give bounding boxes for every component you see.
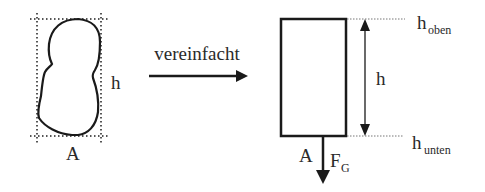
simplified-rectangle bbox=[281, 19, 346, 136]
diagram-canvas: h A vereinfacht h h oben bbox=[0, 0, 485, 192]
svg-text:oben: oben bbox=[428, 23, 451, 37]
force-label: F G bbox=[330, 150, 350, 175]
svg-text:h: h bbox=[412, 132, 422, 153]
dotted-bounding-box bbox=[30, 13, 108, 143]
gravity-force-arrow bbox=[316, 136, 330, 184]
svg-text:F: F bbox=[330, 150, 341, 171]
bottom-height-label: h unten bbox=[412, 132, 451, 157]
height-dimension-arrow bbox=[360, 19, 370, 136]
irregular-body-outline bbox=[38, 19, 100, 135]
arrow-right-icon bbox=[236, 70, 248, 82]
arrow-down-icon bbox=[360, 124, 370, 136]
svg-text:G: G bbox=[341, 161, 350, 175]
simplification-label: vereinfacht bbox=[154, 43, 240, 64]
top-height-label: h oben bbox=[417, 12, 451, 37]
svg-text:unten: unten bbox=[424, 143, 451, 157]
arrow-up-icon bbox=[360, 19, 370, 31]
right-area-label: A bbox=[299, 145, 313, 166]
diagram-svg: h A vereinfacht h h oben bbox=[0, 0, 485, 192]
left-height-label: h bbox=[111, 72, 121, 93]
right-figure: h h oben h unten A F G bbox=[281, 12, 451, 184]
arrow-down-icon bbox=[316, 170, 330, 184]
right-height-label: h bbox=[376, 68, 386, 89]
simplification-arrow: vereinfacht bbox=[149, 43, 248, 82]
left-figure: h A bbox=[30, 13, 121, 164]
left-area-label: A bbox=[66, 143, 80, 164]
svg-text:h: h bbox=[417, 12, 427, 33]
